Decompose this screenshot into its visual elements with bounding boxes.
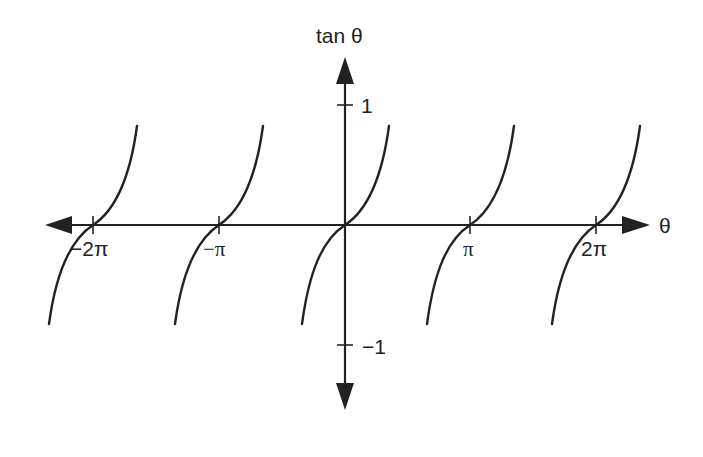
x-tick-label-neg2pi: −2π	[70, 237, 108, 260]
x-axis-label: θ	[659, 214, 671, 237]
y-axis-up-arrow-icon	[336, 57, 354, 84]
y-tick-label-neg1: −1	[362, 335, 386, 358]
x-tick-label-2pi: 2π	[581, 237, 607, 260]
y-tick-label-1: 1	[361, 94, 373, 117]
y-axis-down-arrow-icon	[336, 383, 354, 410]
y-axis-label: tan θ	[316, 24, 363, 47]
x-tick-label-pi: π	[463, 237, 474, 261]
x-axis-left-arrow-icon	[45, 216, 72, 234]
tangent-graph: tan θ θ 1 −1 −2π −π π 2π	[0, 0, 703, 457]
x-tick-label-negpi: −π	[203, 237, 226, 261]
x-axis-right-arrow-icon	[622, 216, 650, 234]
